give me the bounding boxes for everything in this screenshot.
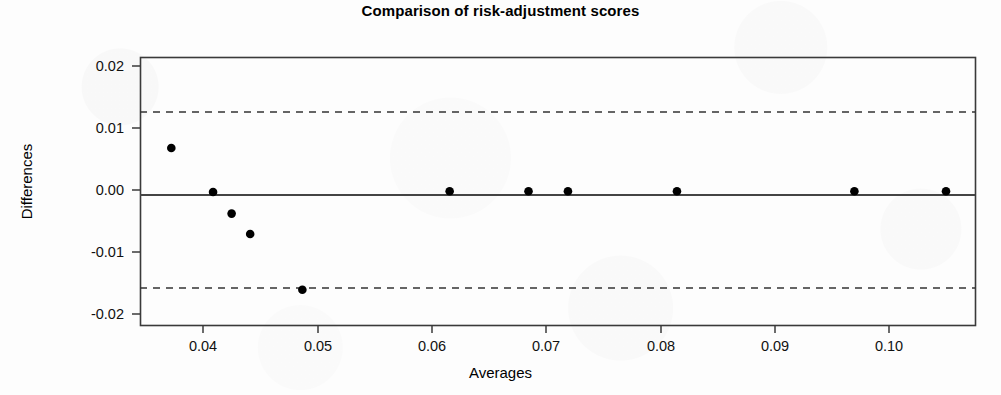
y-axis-ticks: 0.02 0.01 0.00 -0.01 -0.02: [91, 58, 140, 322]
data-point: [524, 187, 533, 196]
x-tick-label: 0.04: [189, 338, 217, 354]
chart-figure: Comparison of risk-adjustment scores 0.0…: [0, 0, 1001, 395]
y-tick-label: 0.02: [96, 58, 124, 74]
data-point: [209, 188, 218, 197]
data-point: [564, 187, 573, 196]
reference-lines-group: [140, 112, 975, 288]
x-tick-label: 0.06: [418, 338, 446, 354]
y-tick-label: -0.02: [91, 306, 124, 322]
data-point: [246, 230, 255, 239]
x-axis-ticks: 0.04 0.05 0.06 0.07 0.08 0.09 0.10: [189, 325, 903, 354]
data-point: [850, 187, 859, 196]
data-point: [673, 187, 682, 196]
data-point: [227, 209, 236, 218]
x-tick-label: 0.10: [875, 338, 903, 354]
x-axis-title: Averages: [0, 364, 1001, 381]
data-point: [298, 285, 307, 294]
x-tick-label: 0.07: [532, 338, 560, 354]
data-point-group: [167, 144, 950, 294]
x-tick-label: 0.09: [761, 338, 789, 354]
y-axis-title: Differences: [18, 112, 35, 252]
y-tick-label: -0.01: [91, 244, 124, 260]
x-tick-label: 0.05: [304, 338, 332, 354]
data-point: [942, 187, 951, 196]
y-tick-label: 0.01: [96, 120, 124, 136]
bland-altman-plot: 0.04 0.05 0.06 0.07 0.08 0.09 0.10 0.02 …: [0, 0, 1001, 395]
x-tick-label: 0.08: [647, 338, 675, 354]
y-tick-label: 0.00: [96, 182, 124, 198]
data-point: [167, 144, 176, 153]
data-point: [445, 187, 454, 196]
